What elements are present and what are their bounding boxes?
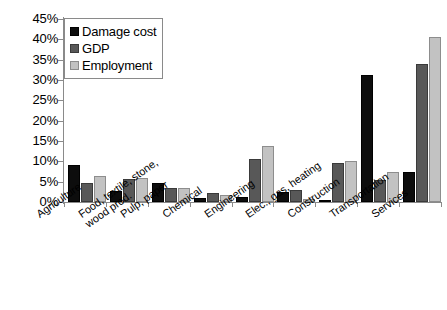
legend-label-gdp: GDP [82,42,110,56]
y-axis-tick-label: 35% [2,53,58,66]
bar-chart: 45%40%35%30%25%20%15%10%5%0% Agriculture… [0,0,447,310]
legend-label-employment: Employment [82,59,152,73]
y-axis-tick-label: 5% [2,175,58,188]
y-axis-tick-label: 30% [2,73,58,86]
x-axis-tick [441,202,442,207]
legend-item-damage-cost: Damage cost [70,23,156,40]
chart-legend: Damage cost GDP Employment [64,18,163,79]
legend-item-gdp: GDP [70,40,156,57]
legend-swatch-damage-cost [70,27,79,36]
bar [429,37,441,202]
bar-group [403,19,441,202]
y-axis-tick-label: 45% [2,12,58,25]
bar-group [319,19,357,202]
bar-group [194,19,232,202]
y-axis-tick-label: 15% [2,134,58,147]
y-axis-tick-label: 40% [2,32,58,45]
bar-group [236,19,274,202]
y-axis-tick-label: 25% [2,93,58,106]
y-axis-tick-label: 20% [2,114,58,127]
y-axis-tick-label: 10% [2,154,58,167]
legend-label-damage-cost: Damage cost [82,25,156,39]
bar [319,200,331,202]
bar [416,64,428,202]
legend-swatch-gdp [70,44,79,53]
legend-item-employment: Employment [70,57,156,74]
legend-swatch-employment [70,61,79,70]
y-axis: 45%40%35%30%25%20%15%10%5%0% [0,0,58,310]
